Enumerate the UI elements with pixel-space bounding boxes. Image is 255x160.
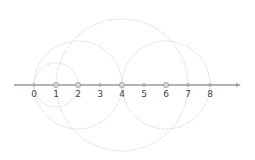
point-5	[142, 83, 146, 87]
tick-label-1: 1	[53, 90, 59, 99]
point-0	[32, 83, 36, 87]
tick-label-0: 0	[31, 90, 37, 99]
point-7	[186, 83, 190, 87]
point-3	[98, 83, 102, 87]
point-6	[163, 82, 168, 87]
tick-label-8: 8	[207, 90, 213, 99]
number-line-diagram	[0, 0, 255, 160]
tick-label-5: 5	[141, 90, 147, 99]
tick-label-7: 7	[185, 90, 191, 99]
point-4	[119, 82, 124, 87]
tick-label-4: 4	[119, 90, 125, 99]
tick-label-3: 3	[97, 90, 103, 99]
tick-label-2: 2	[75, 90, 81, 99]
point-2	[75, 82, 80, 87]
point-1	[53, 82, 58, 87]
point-8	[208, 83, 212, 87]
tick-label-6: 6	[163, 90, 169, 99]
arrow-right-icon	[236, 83, 241, 87]
